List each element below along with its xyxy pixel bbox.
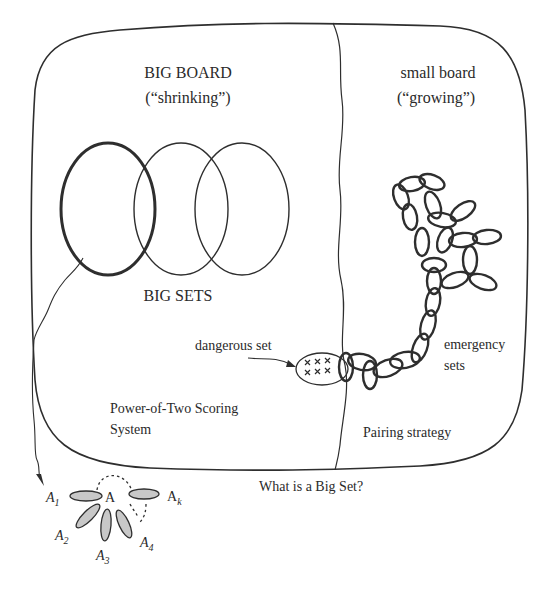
- big-board-title: BIG BOARD: [144, 64, 232, 81]
- big-set-highlighted: [61, 143, 155, 275]
- big-set-arrow: [33, 258, 84, 478]
- pairing-strategy-label: Pairing strategy: [363, 425, 451, 440]
- label-a3: A3: [95, 548, 110, 566]
- petal-a4: [113, 508, 135, 539]
- big-sets-label: BIG SETS: [144, 287, 213, 304]
- small-board-title: small board: [400, 64, 475, 81]
- petal-a2: [73, 501, 103, 531]
- emergency-sets-chain: [339, 171, 502, 389]
- dangerous-set-label: dangerous set: [195, 338, 272, 353]
- dangerous-arrow: [248, 358, 292, 365]
- emergency-line-2: sets: [444, 358, 465, 373]
- board-divider: [333, 23, 347, 470]
- label-a1: A1: [45, 490, 60, 508]
- big-set-detail: [70, 476, 159, 542]
- big-set-2: [134, 143, 228, 275]
- petal-ak: [129, 489, 159, 499]
- big-board-subtitle: (“shrinking”): [145, 89, 230, 107]
- scoring-line-1: Power-of-Two Scoring: [110, 401, 238, 416]
- small-board-subtitle: (“growing”): [397, 89, 475, 107]
- petal-a3: [100, 509, 113, 542]
- label-a2: A2: [54, 528, 69, 546]
- emergency-line-1: emergency: [444, 337, 505, 352]
- arrow-head-icon: [286, 360, 296, 367]
- big-sets-group: [61, 143, 289, 275]
- big-set-3: [195, 143, 289, 275]
- big-set-question: What is a Big Set?: [259, 479, 363, 494]
- diagram-canvas: BIG BOARD (“shrinking”) small board (“gr…: [0, 0, 555, 590]
- label-a4: A4: [139, 535, 154, 553]
- scoring-line-2: System: [110, 422, 151, 437]
- center-a-label: A: [105, 490, 116, 505]
- label-ak: Ak: [167, 489, 182, 507]
- dotted-tail: [130, 504, 146, 522]
- petal-a1: [70, 491, 102, 501]
- dangerous-marks: [305, 358, 330, 375]
- arrow-head-icon: [36, 474, 44, 486]
